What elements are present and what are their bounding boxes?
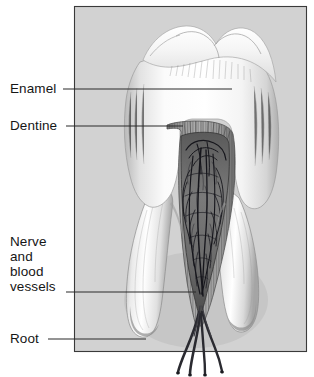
label-enamel: Enamel	[10, 81, 56, 96]
label-root-text: Root	[10, 331, 39, 346]
label-nerve-line-4: vessels	[10, 279, 56, 294]
label-dentine: Dentine	[10, 118, 57, 133]
label-nerve-line-3: blood	[10, 264, 56, 279]
tooth-anatomy-figure: Enamel Dentine Nerve and blood vessels R…	[0, 0, 314, 377]
tooth-illustration	[124, 26, 279, 377]
label-nerve-and-blood-vessels: Nerve and blood vessels	[10, 234, 56, 294]
label-enamel-text: Enamel	[10, 81, 56, 96]
label-nerve-line-2: and	[10, 249, 56, 264]
label-nerve-line-1: Nerve	[10, 234, 47, 249]
tooth-diagram-svg	[0, 0, 314, 377]
label-root: Root	[10, 331, 39, 346]
label-dentine-text: Dentine	[10, 118, 57, 133]
